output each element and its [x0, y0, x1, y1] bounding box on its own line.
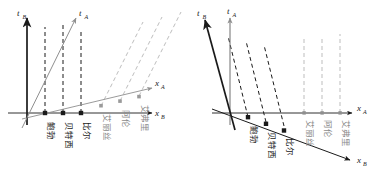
- event-dot-alice: [99, 104, 103, 108]
- event-dot-bill: [79, 111, 83, 115]
- event-label-arun: 阿伦: [323, 120, 333, 138]
- event-label-bill: 比尔: [285, 138, 295, 156]
- event-dot-betsy: [61, 111, 65, 115]
- event-label-alice: 艾丽丝: [102, 114, 112, 141]
- label-xB-left: x: [154, 108, 159, 118]
- label-xA-left: x: [154, 78, 159, 88]
- label-xA-right-sub: A: [362, 109, 367, 115]
- event-dot-betsy: [264, 122, 268, 126]
- label-xB-right-sub: B: [363, 161, 367, 167]
- spacetime-diagram-figure: t B t A x A x B 鲍勃 贝特西 比尔 艾丽丝 阿伦 艾弗里: [0, 0, 387, 194]
- label-xA-right: x: [356, 103, 361, 113]
- label-tA-left-sub: A: [84, 14, 89, 20]
- event-label-bob: 鲍勃: [249, 126, 259, 144]
- label-tA-right-sub: A: [232, 12, 237, 18]
- label-xA-left-sub: A: [160, 84, 165, 90]
- event-label-alice: 艾丽丝: [305, 120, 315, 147]
- label-tB-right-sub: B: [203, 14, 207, 20]
- event-label-avery: 艾弗里: [341, 120, 351, 147]
- event-label-avery: 艾弗里: [140, 105, 150, 132]
- event-label-betsy: 贝特西: [64, 122, 74, 149]
- event-dot-bob: [246, 115, 250, 119]
- event-dot-arun: [320, 111, 323, 114]
- event-dot-avery: [338, 111, 341, 114]
- event-dot-bill: [282, 128, 286, 132]
- event-dot-arun: [118, 99, 122, 103]
- event-dot-bob: [43, 111, 47, 115]
- event-label-arun: 阿伦: [121, 110, 131, 128]
- label-tB-left-sub: B: [23, 14, 27, 20]
- event-dot-avery: [137, 95, 141, 99]
- spacetime-diagram-svg: t B t A x A x B 鲍勃 贝特西 比尔 艾丽丝 阿伦 艾弗里: [0, 0, 387, 194]
- event-label-betsy: 贝特西: [267, 132, 277, 159]
- label-xB-right: x: [356, 155, 361, 165]
- event-label-bob: 鲍勃: [46, 122, 56, 140]
- label-xB-left-sub: B: [161, 114, 165, 120]
- canvas-background: [0, 0, 387, 194]
- event-dot-alice: [302, 111, 305, 114]
- event-label-bill: 比尔: [82, 122, 92, 140]
